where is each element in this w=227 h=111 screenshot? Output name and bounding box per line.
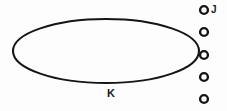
small-circle-2 — [200, 28, 208, 36]
small-circle-1 — [200, 6, 208, 14]
diagram-svg: J K — [0, 0, 227, 111]
small-circle-4 — [200, 73, 208, 81]
small-circle-5 — [200, 95, 208, 103]
small-circle-3 — [200, 51, 208, 59]
large-ellipse — [13, 19, 199, 83]
ellipse-label-k: K — [107, 87, 115, 99]
diagram-canvas: J K — [0, 0, 227, 111]
circle-label-j: J — [211, 4, 217, 15]
